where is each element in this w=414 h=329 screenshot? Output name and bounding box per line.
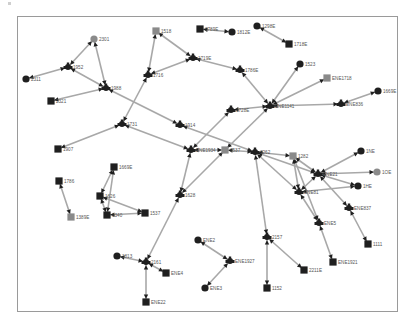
graph-node[interactable]: 1716 [144,71,164,79]
graph-node[interactable]: 1628 [176,191,196,199]
node-junction-icon [227,106,236,114]
node-label: 1813 [122,254,133,259]
edge-arrowhead [265,281,269,285]
node-label: ENE1141 [275,104,295,109]
edge[interactable] [146,195,180,262]
graph-node[interactable]: ENE837 [345,204,372,212]
graph-node[interactable]: 1537 [221,146,240,153]
edge[interactable] [180,150,225,195]
graph-node[interactable]: ENE1141 [266,102,295,110]
edge[interactable] [255,152,267,237]
graph-node[interactable]: ENE81 [295,188,320,196]
edge[interactable] [94,39,106,88]
node-circle-icon [373,168,380,175]
graph-node[interactable]: ENE21 [314,170,339,178]
graph-node[interactable]: ENE1934 [187,146,217,154]
graph-node[interactable]: 2211E [300,266,322,273]
graph-node[interactable]: 1389E [67,213,89,220]
graph-node[interactable]: 2321 [47,97,66,104]
graph-node[interactable]: ENE1927 [226,257,256,265]
node-label: 1340 [112,213,123,218]
graph-node[interactable]: 1NE [357,147,375,154]
node-circle-icon [357,147,364,154]
graph-node[interactable]: 1952 [64,63,84,71]
node-circle-icon [194,236,201,243]
graph-node[interactable]: 1812E [228,28,250,35]
graph-node[interactable]: 1731 [118,120,138,128]
graph-node[interactable]: 1262 [251,148,271,156]
edge[interactable] [270,78,327,106]
node-square-icon [54,145,61,152]
graph-node[interactable]: 1111 [364,240,382,247]
graph-node[interactable]: 1523 [296,60,315,67]
edge[interactable] [58,124,122,149]
graph-node[interactable]: ENE3 [201,284,222,291]
network-graph[interactable]: 2301195223111988232117311907151817161719… [0,0,414,329]
node-junction-icon [176,121,185,129]
node-label: 1988 [111,86,122,91]
graph-node[interactable]: 1669E [374,87,396,94]
node-label: 1282 [298,154,309,159]
graph-node[interactable]: 1298E [253,22,275,29]
node-label: ENE22 [151,300,166,305]
node-label: 1OE [382,170,391,175]
graph-node[interactable]: ENE4 [162,269,183,276]
node-junction-icon [144,71,153,79]
node-label: ENE1921 [338,260,358,265]
graph-node[interactable]: 1914 [176,121,196,129]
graph-node[interactable]: 1HE [354,182,372,189]
node-label: 1786 [64,179,75,184]
graph-node[interactable]: 2301 [90,35,109,42]
node-label: 1537 [150,211,161,216]
edge[interactable] [106,88,180,125]
graph-node[interactable]: 1OE [373,168,391,175]
node-label: 1669E [119,165,132,170]
node-label: ENE1718 [332,76,352,81]
edge-arrowhead [144,295,148,299]
node-square-icon [96,192,103,199]
node-label: 1914 [185,123,196,128]
graph-node[interactable]: ENE1718 [323,74,352,81]
node-square-icon [285,40,292,47]
edge[interactable] [122,75,148,124]
edge[interactable] [270,64,300,106]
node-label: ENE5 [324,221,336,226]
graph-node[interactable]: ENE22 [142,298,166,305]
graph-node[interactable]: 1718E [285,40,307,47]
node-square-icon [47,97,54,104]
node-label: 1731 [127,122,138,127]
graph-node[interactable]: ENE1921 [329,258,358,265]
graph-node[interactable]: 1152 [263,284,282,291]
node-square-icon [152,27,159,34]
node-label: 2211E [309,268,322,273]
node-label: 2161 [151,260,162,265]
edge[interactable] [191,110,231,150]
node-square-icon [329,258,336,265]
graph-node[interactable]: 2311 [22,75,41,82]
graph-node[interactable]: 1786E [236,66,259,74]
node-square-icon [196,25,203,32]
graph-node[interactable]: 2157 [263,233,283,241]
graph-node[interactable]: 1786 [55,177,74,184]
graph-node[interactable]: 1537 [141,209,160,216]
graph-node[interactable]: 1728E [227,106,250,114]
node-junction-icon [251,148,260,156]
node-circle-icon [228,28,235,35]
node-square-icon [103,211,110,218]
node-label: 1262 [260,150,271,155]
graph-node[interactable]: 1789E [196,25,218,32]
node-square-icon [300,266,307,273]
node-junction-icon [102,84,111,92]
node-label: 1628 [185,193,196,198]
graph-node[interactable]: 1669E [110,163,132,170]
node-circle-icon [296,60,303,67]
node-circle-icon [374,87,381,94]
graph-node[interactable]: 1719E [189,54,212,62]
node-label: ENE1934 [196,148,216,153]
graph-node[interactable]: 1907 [54,145,73,152]
graph-node[interactable]: 2161 [142,258,162,266]
graph-node[interactable]: 1340 [103,211,122,218]
graph-node[interactable]: ENE836 [337,100,364,108]
node-circle-icon [201,284,208,291]
node-square-icon [289,152,296,159]
